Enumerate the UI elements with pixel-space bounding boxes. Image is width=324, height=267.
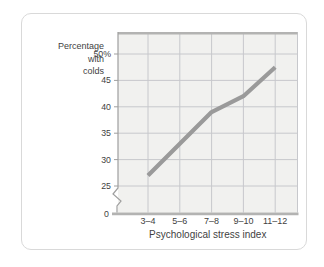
x-tick-label: 5–6 — [172, 216, 187, 226]
line-chart: 253035404550%03–45–67–89–1011–12Psycholo… — [22, 14, 306, 249]
y-tick-label: 50% — [93, 49, 111, 59]
plot-area — [118, 32, 298, 213]
y-tick-label: 40 — [101, 102, 111, 112]
y-tick-label: 45 — [101, 75, 111, 85]
x-tick-label: 7–8 — [204, 216, 219, 226]
chart-card: Percentage with colds 253035404550%03–45… — [21, 13, 307, 250]
page: Percentage with colds 253035404550%03–45… — [0, 0, 324, 267]
x-tick-label: 3–4 — [140, 216, 155, 226]
y-tick-label: 25 — [101, 181, 111, 191]
y-tick-label: 30 — [101, 155, 111, 165]
x-axis-title: Psychological stress index — [149, 229, 266, 240]
x-tick-label: 11–12 — [263, 216, 287, 226]
y-origin-label: 0 — [104, 209, 109, 219]
x-tick-label: 9–10 — [233, 216, 253, 226]
y-tick-label: 35 — [101, 128, 111, 138]
